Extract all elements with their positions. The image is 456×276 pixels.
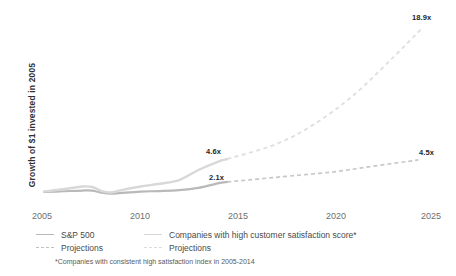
series-sp500-projection [227, 160, 418, 182]
chart-legend: S&P 500 Companies with high customer sat… [36, 228, 456, 254]
x-axis-tick-2020: 2020 [326, 211, 346, 221]
legend-item-sp500-projections[interactable]: Projections [36, 243, 144, 253]
dashed-dark-gray-line-swatch-icon [36, 244, 54, 252]
series-satisfaction-projection [227, 28, 422, 159]
satisfaction-projection-line [227, 28, 422, 159]
x-axis-tick-2025: 2025 [421, 211, 441, 221]
data-label-18-9x: 18.9x [412, 13, 431, 22]
x-axis-tick-2015: 2015 [228, 211, 248, 221]
legend-item-satisfaction-projections[interactable]: Projections [144, 243, 444, 253]
legend-row-solid: S&P 500 Companies with high customer sat… [36, 228, 456, 241]
legend-label-satisfaction-projections: Projections [169, 243, 211, 253]
legend-label-sp500-projections: Projections [61, 243, 103, 253]
legend-row-projections: Projections Projections [36, 241, 456, 254]
dashed-light-gray-line-swatch-icon [144, 244, 162, 252]
chart-container: Growth of $1 invested in 2005 2005 2010 … [0, 0, 456, 276]
legend-item-satisfaction[interactable]: Companies with high customer satisfactio… [144, 230, 444, 240]
solid-light-gray-line-swatch-icon [144, 231, 162, 239]
sp500-projection-line [227, 160, 418, 182]
data-label-4-5x: 4.5x [419, 148, 434, 157]
legend-label-satisfaction: Companies with high customer satisfactio… [169, 230, 357, 240]
chart-footnote: *Companies with consistent high satisfac… [55, 258, 255, 265]
legend-label-sp500: S&P 500 [61, 230, 94, 240]
x-axis-tick-2005: 2005 [32, 211, 52, 221]
data-label-4-6x: 4.6x [206, 147, 221, 156]
y-axis-label: Growth of $1 invested in 2005 [27, 45, 37, 205]
data-label-2-1x: 2.1x [209, 173, 224, 182]
legend-item-sp500[interactable]: S&P 500 [36, 230, 144, 240]
x-axis-tick-2010: 2010 [130, 211, 150, 221]
solid-dark-gray-line-swatch-icon [36, 231, 54, 239]
